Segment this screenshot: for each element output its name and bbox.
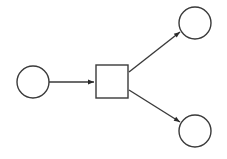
arc-transition-to-top (129, 32, 180, 72)
arc-transition-to-bottom (129, 90, 180, 122)
input-place-circle (17, 66, 49, 98)
output-place-top-circle (179, 7, 211, 39)
petri-net-diagram (0, 0, 227, 159)
transition-square (96, 65, 128, 98)
output-place-bottom-circle (179, 115, 211, 147)
